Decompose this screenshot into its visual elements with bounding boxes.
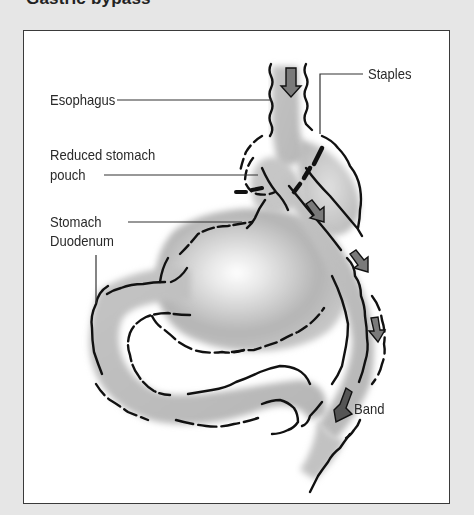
organ-fills: [89, 66, 374, 480]
label-duodenum: Duodenum: [50, 232, 114, 250]
label-stomach: Stomach: [50, 213, 102, 231]
label-band: Band: [354, 400, 384, 418]
label-staples: Staples: [368, 65, 412, 83]
label-esophagus: Esophagus: [50, 91, 115, 109]
label-reduced-stomach-pouch-line1: Reduced stomach: [50, 146, 155, 164]
label-reduced-stomach-pouch-line2: pouch: [50, 166, 86, 184]
